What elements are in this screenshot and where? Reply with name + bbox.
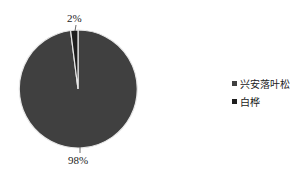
legend-label: 白桦 bbox=[240, 94, 260, 109]
legend-label: 兴安落叶松 bbox=[240, 76, 290, 91]
legend-swatch-icon bbox=[232, 81, 237, 86]
legend-swatch-icon bbox=[232, 99, 237, 104]
legend-item-larch: 兴安落叶松 bbox=[232, 74, 290, 92]
legend: 兴安落叶松 白桦 bbox=[232, 74, 290, 110]
legend-item-birch: 白桦 bbox=[232, 92, 290, 110]
pie-chart: 2% 98% 兴安落叶松 白桦 bbox=[0, 0, 305, 180]
data-label-small: 2% bbox=[67, 12, 82, 24]
data-label-big: 98% bbox=[68, 154, 88, 166]
